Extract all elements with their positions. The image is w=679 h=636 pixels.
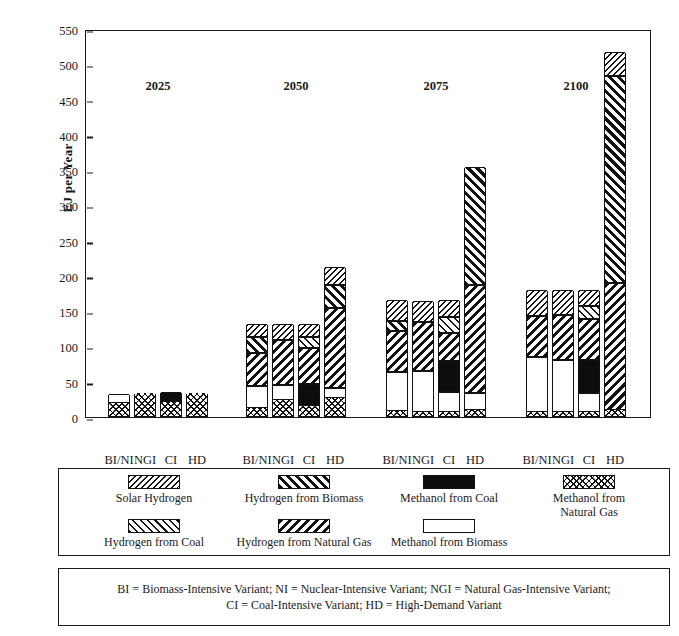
segment-divider (553, 314, 573, 315)
x-axis-label-2050-NGI: NGI (272, 453, 294, 468)
segment-divider (605, 409, 625, 410)
y-axis-tick-mark (87, 243, 93, 244)
legend-swatch-hcoal (128, 519, 180, 533)
legend-item-hbio: Hydrogen from Biomass (229, 469, 379, 506)
y-axis-tick-mark (87, 313, 93, 314)
y-axis-tick: 200 (59, 270, 86, 285)
legend-item-hng: Hydrogen from Natural Gas (229, 513, 379, 550)
bar-segment-hng (605, 283, 625, 411)
segment-divider (579, 305, 599, 306)
bar-2050-HD (324, 268, 346, 417)
bar-segment-solar (553, 290, 573, 315)
x-axis-label-2100-HD: HD (606, 453, 624, 468)
bar-segment-mcoal (579, 360, 599, 394)
bar-segment-solar (413, 301, 433, 322)
segment-divider (439, 360, 459, 361)
bar-segment-hng (273, 340, 293, 385)
y-axis-tick-mark (87, 66, 93, 67)
y-axis-tick-mark (87, 348, 93, 349)
segment-divider (273, 384, 293, 385)
segment-divider (387, 410, 407, 411)
x-axis-label-2025-NGI: NGI (134, 453, 156, 468)
bar-segment-hng (325, 308, 345, 388)
segment-divider (247, 407, 267, 408)
bar-segment-mng (605, 410, 625, 416)
y-axis-tick: 500 (59, 59, 86, 74)
y-axis-tick-mark (87, 384, 93, 385)
segment-divider (273, 339, 293, 340)
segment-divider (413, 370, 433, 371)
x-axis-label-2025-BI/NI: BI/NI (104, 453, 133, 468)
legend-label-solar: Solar Hydrogen (79, 492, 229, 506)
segment-divider (247, 352, 267, 353)
bar-segment-mng (109, 403, 129, 416)
bar-segment-mbio (465, 393, 485, 410)
plot-frame: 0501001502002503003504004505005502025BI/… (85, 30, 651, 418)
legend-swatch-mbio (423, 519, 475, 533)
bar-2025-HD (186, 394, 208, 417)
legend-label-mcoal: Methanol from Coal (374, 492, 524, 506)
bar-segment-mng (247, 408, 267, 416)
bar-segment-mng (553, 412, 573, 416)
segment-divider (413, 321, 433, 322)
segment-divider (605, 282, 625, 283)
bar-segment-mbio (439, 392, 459, 412)
bar-segment-solar (387, 300, 407, 321)
bar-2100-CI (578, 291, 600, 417)
group-label-2025: 2025 (146, 79, 171, 94)
bar-segment-mng (273, 400, 293, 416)
y-axis-tick: 50 (66, 376, 87, 391)
bar-segment-mbio (553, 360, 573, 412)
bar-segment-mng (579, 412, 599, 416)
legend-item-mng: Methanol from Natural Gas (514, 469, 664, 519)
legend-row-2: Hydrogen from CoalHydrogen from Natural … (59, 513, 669, 557)
y-axis-tick-mark (87, 278, 93, 279)
bar-segment-mng (187, 393, 207, 416)
y-axis-tick-mark (87, 419, 93, 420)
x-axis-label-2075-CI: CI (443, 453, 456, 468)
y-axis-tick-mark (87, 172, 93, 173)
segment-divider (527, 411, 547, 412)
bar-2050-NGI (272, 325, 294, 417)
segment-divider (109, 402, 129, 403)
legend-swatch-hng (278, 519, 330, 533)
bar-segment-mbio (273, 385, 293, 401)
group-label-2075: 2075 (424, 79, 449, 94)
y-axis-tick: 450 (59, 94, 86, 109)
bar-2075-CI (438, 301, 460, 417)
y-axis-tick: 350 (59, 165, 86, 180)
legend-item-mbio: Methanol from Biomass (374, 513, 524, 550)
segment-divider (299, 383, 319, 384)
bar-segment-hng (247, 353, 267, 387)
bar-segment-hng (439, 333, 459, 361)
segment-divider (553, 411, 573, 412)
plot-area: EJ per Year 0501001502002503003504004505… (0, 0, 679, 455)
y-axis-tick: 150 (59, 306, 86, 321)
segment-divider (579, 392, 599, 393)
legend-label-mbio: Methanol from Biomass (374, 536, 524, 550)
bar-segment-solar (325, 267, 345, 285)
segment-divider (387, 320, 407, 321)
bar-segment-hbio (605, 76, 625, 283)
segment-divider (605, 75, 625, 76)
y-axis-tick-mark (87, 31, 93, 32)
segment-divider (325, 307, 345, 308)
bar-segment-solar (579, 290, 599, 306)
x-axis-label-2025-CI: CI (165, 453, 178, 468)
bar-segment-hcoal (439, 317, 459, 333)
bar-2075-BI/NI (386, 301, 408, 417)
bar-segment-mbio (387, 372, 407, 412)
segment-divider (325, 387, 345, 388)
bar-segment-hng (553, 315, 573, 359)
legend-item-mcoal: Methanol from Coal (374, 469, 524, 506)
legend: Solar HydrogenHydrogen from BiomassMetha… (58, 468, 670, 556)
bar-segment-mbio (527, 357, 547, 411)
segment-divider (161, 401, 181, 402)
chart-page: EJ per Year 0501001502002503003504004505… (0, 0, 679, 636)
segment-divider (299, 347, 319, 348)
bar-segment-mng (387, 411, 407, 416)
bar-segment-hng (579, 319, 599, 359)
bar-segment-mbio (247, 386, 267, 407)
bar-segment-hbio (465, 167, 485, 285)
bar-segment-mng (413, 412, 433, 416)
